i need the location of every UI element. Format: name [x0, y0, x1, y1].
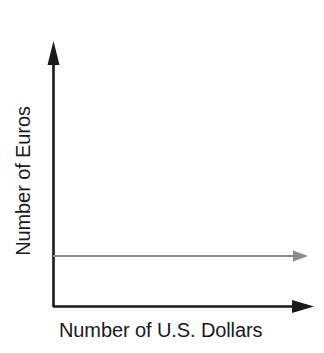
x-axis-arrowhead — [292, 300, 314, 313]
data-series-arrowhead — [293, 251, 308, 262]
x-axis-label: Number of U.S. Dollars — [59, 318, 262, 342]
chart-figure: Number of Euros Number of U.S. Dollars — [0, 0, 324, 353]
y-axis-label: Number of Euros — [11, 106, 35, 256]
y-axis-arrowhead — [48, 41, 60, 65]
plot-area — [0, 0, 324, 353]
y-axis-label-container: Number of Euros — [0, 0, 46, 353]
